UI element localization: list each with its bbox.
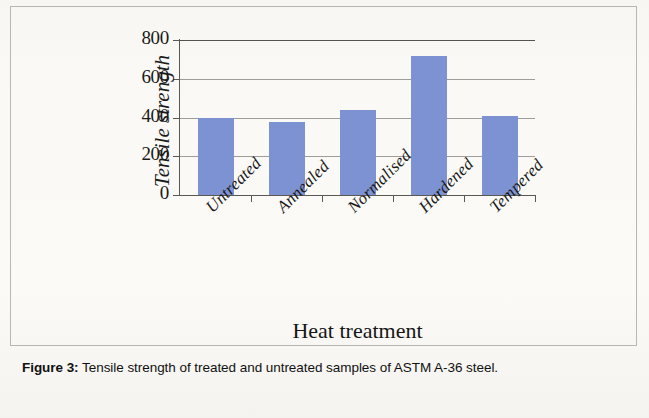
x-axis-category-labels: UntreatedAnnealedNormalisedHardenedTempe… <box>180 203 540 313</box>
x-axis-title: Heat treatment <box>180 318 535 344</box>
y-tick-label-600: 600 <box>120 66 169 88</box>
x-tick-2 <box>322 195 323 202</box>
y-tick-label-400: 400 <box>120 105 169 127</box>
y-tick-label-0: 0 <box>120 182 169 204</box>
y-tick-label-800: 800 <box>120 27 169 49</box>
x-tick-1 <box>251 195 252 202</box>
figure-caption: Figure 3: Tensile strength of treated an… <box>22 358 630 377</box>
figure-caption-label: Figure 3: <box>22 360 79 375</box>
x-tick-end <box>535 195 536 202</box>
figure-page: Tensile strength 0200400600800 Untreated… <box>0 0 649 418</box>
bar-hardened <box>411 56 447 195</box>
x-tick-3 <box>393 195 394 202</box>
y-tick-label-200: 200 <box>120 143 169 165</box>
x-tick-4 <box>464 195 465 202</box>
figure-caption-text: Tensile strength of treated and untreate… <box>79 360 499 375</box>
